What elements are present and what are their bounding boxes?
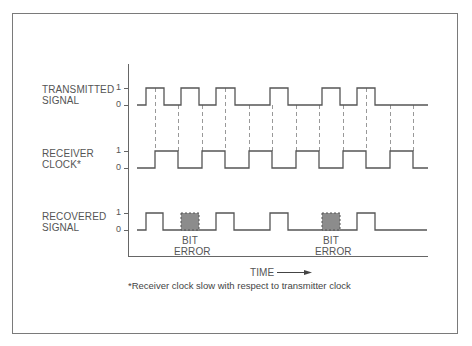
tick-high-transmitted: 1 bbox=[116, 82, 121, 92]
time-arrow bbox=[277, 270, 312, 275]
bit-error-box-2 bbox=[322, 213, 340, 230]
tick-low-transmitted: 0 bbox=[116, 99, 121, 109]
row-label-receiver-clock: RECEIVERCLOCK* bbox=[42, 148, 94, 170]
row-label-recovered: RECOVEREDSIGNAL bbox=[42, 211, 106, 233]
bit-error-box-1 bbox=[181, 213, 199, 230]
transmitted-signal-wave bbox=[137, 88, 428, 105]
bit-error-label-1: BITERROR bbox=[174, 235, 206, 257]
waveform-diagram bbox=[0, 0, 472, 346]
tick-high-clock: 1 bbox=[116, 145, 121, 155]
tick-low-clock: 0 bbox=[116, 162, 121, 172]
time-label: TIME bbox=[250, 267, 274, 278]
row-label-transmitted: TRANSMITTEDSIGNAL bbox=[42, 84, 114, 106]
footnote: *Receiver clock slow with respect to tra… bbox=[128, 280, 351, 291]
tick-high-recovered: 1 bbox=[116, 207, 121, 217]
tick-low-recovered: 0 bbox=[116, 224, 121, 234]
axes bbox=[124, 64, 428, 257]
receiver-clock-wave bbox=[137, 151, 428, 168]
bit-error-label-2: BITERROR bbox=[315, 235, 347, 257]
